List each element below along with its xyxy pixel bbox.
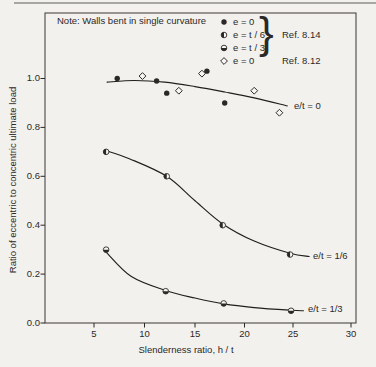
x-tick-label: 5 xyxy=(82,329,106,340)
reference-label-812: Ref. 8.12 xyxy=(282,56,321,67)
chart-note: Note: Walls bent in single curvature xyxy=(57,16,206,27)
data-point-filled-circle xyxy=(222,100,227,105)
data-point-half-left-circle xyxy=(103,149,109,155)
data-point-half-left-circle xyxy=(220,222,226,228)
data-point-half-bottom-circle xyxy=(103,247,109,253)
x-tick-label: 10 xyxy=(133,329,157,340)
data-point-filled-circle xyxy=(164,90,169,95)
data-point-filled-circle xyxy=(115,76,120,81)
data-point-half-bottom-circle xyxy=(163,288,169,294)
curve-label-et0: e/t = 0 xyxy=(294,101,321,112)
legend-item-e0-diamond: e = 0 xyxy=(219,55,254,67)
x-tick-label: 30 xyxy=(339,329,363,340)
trend-curve xyxy=(106,151,309,257)
curve-label-et13: e/t = 1/3 xyxy=(308,304,343,315)
brace-icon: } xyxy=(259,11,274,55)
scanned-figure-page: { "page": { "bg_color": "#f3f1ee", "ink_… xyxy=(0,0,376,367)
y-tick-label: 0.8 xyxy=(18,122,40,133)
x-tick-label: 15 xyxy=(183,329,207,340)
curve-label-et16: e/t = 1/6 xyxy=(313,251,348,262)
data-point-filled-circle xyxy=(221,19,226,24)
data-point-open-diamond xyxy=(175,87,182,94)
data-point-half-bottom-circle xyxy=(221,45,227,51)
trend-curve xyxy=(106,252,303,311)
data-point-half-left-circle xyxy=(221,32,227,38)
y-tick-label: 0.4 xyxy=(18,220,40,231)
data-point-half-left-circle xyxy=(287,252,293,258)
x-axis-title: Slenderness ratio, h / t xyxy=(86,345,286,356)
y-tick-label: 0.6 xyxy=(18,171,40,182)
data-point-open-diamond xyxy=(251,87,258,94)
data-point-half-bottom-circle xyxy=(221,301,227,307)
data-point-half-bottom-circle xyxy=(288,308,294,314)
filled-circle-icon xyxy=(219,17,229,27)
open-diamond-icon xyxy=(219,56,229,66)
half-bottom-circle-icon xyxy=(219,43,229,53)
legend-item-e0-filled: e = 0 xyxy=(219,16,254,28)
x-tick-label: 25 xyxy=(281,329,305,340)
trend-curve xyxy=(107,80,287,105)
y-tick-label: 0.2 xyxy=(18,269,40,280)
data-point-filled-circle xyxy=(154,78,159,83)
legend-item-label: e = 0 xyxy=(233,56,254,67)
data-point-open-diamond xyxy=(276,109,283,116)
half-left-circle-icon xyxy=(219,30,229,40)
legend-item-label: e = 0 xyxy=(233,17,254,28)
y-tick-label: 0.0 xyxy=(18,318,40,329)
y-tick-label: 1.0 xyxy=(18,73,40,84)
data-point-open-diamond xyxy=(139,73,146,80)
data-point-open-diamond xyxy=(221,58,228,65)
data-point-half-left-circle xyxy=(164,174,170,180)
x-tick-label: 20 xyxy=(233,329,257,340)
reference-label-814: Ref. 8.14 xyxy=(282,30,321,41)
